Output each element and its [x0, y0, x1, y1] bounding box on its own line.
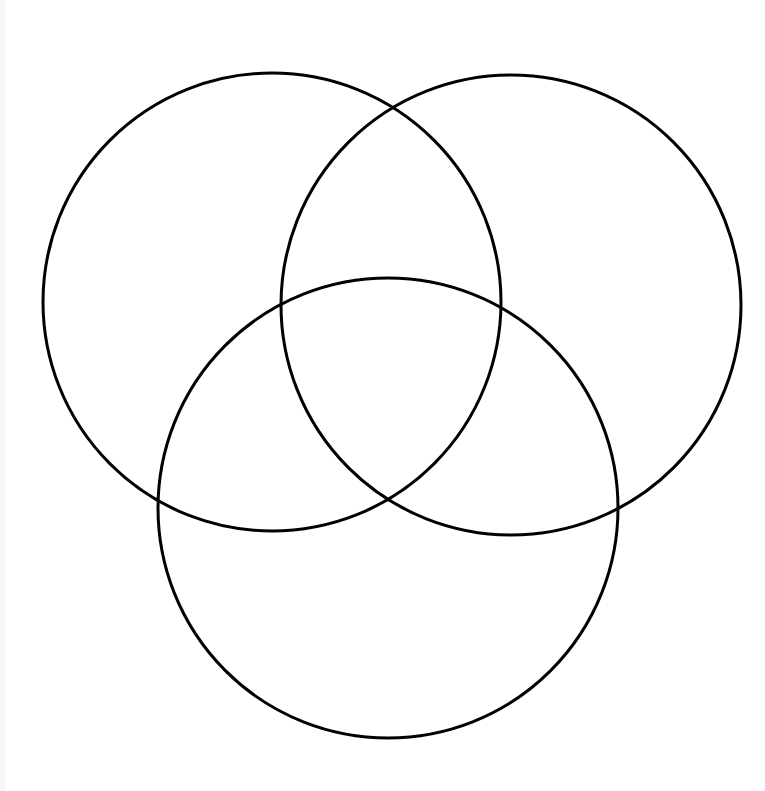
venn-circle-top-left — [43, 73, 501, 531]
venn-circle-top-right — [281, 75, 741, 535]
venn-diagram — [0, 0, 765, 791]
venn-circle-bottom — [158, 278, 618, 738]
